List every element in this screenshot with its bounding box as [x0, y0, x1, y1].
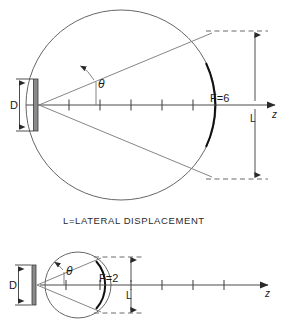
lower-l-label: L: [126, 290, 132, 301]
diagram-canvas: D θ F=6 L z: [0, 0, 292, 325]
figure-caption: L=LATERAL DISPLACEMENT: [63, 215, 205, 226]
upper-l-label: L: [250, 113, 256, 124]
lower-theta-label: θ: [66, 264, 73, 278]
upper-aperture-plate: [34, 79, 39, 131]
lower-d-dimension: [15, 265, 32, 305]
panel-upper: D θ F=6 L z: [10, 10, 277, 200]
upper-theta-label: θ: [98, 77, 105, 91]
lower-d-label: D: [9, 279, 17, 291]
upper-d-label: D: [10, 99, 18, 111]
upper-z-label: z: [271, 109, 277, 120]
upper-f-label: F=6: [210, 92, 229, 104]
lower-z-label: z: [264, 288, 270, 299]
figure-lateral-displacement: D θ F=6 L z: [0, 0, 292, 325]
lower-theta-indicator: [55, 262, 65, 285]
lower-aperture-plate: [32, 265, 36, 305]
upper-theta-indicator: [81, 66, 97, 105]
lower-f-label: F=2: [99, 272, 118, 284]
panel-lower: D θ F=2 L z: [9, 252, 270, 318]
